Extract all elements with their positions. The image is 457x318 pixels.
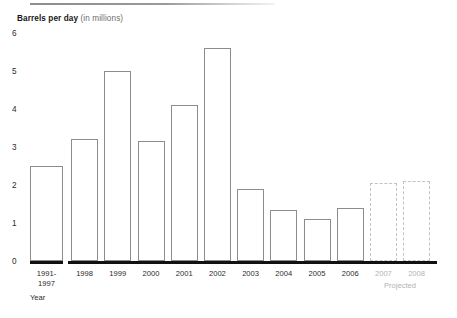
- bar: [30, 166, 63, 261]
- projected-annotation: Projected: [370, 281, 430, 290]
- bar: [270, 210, 297, 261]
- bar: [304, 219, 331, 261]
- y-axis-tick-label: 5: [12, 67, 24, 76]
- y-axis-tick-label: 4: [12, 105, 24, 114]
- x-axis-baseline-segment: [30, 261, 63, 264]
- chart-container: Barrels per day (in millions) 1991-19971…: [0, 0, 457, 318]
- x-axis-title: Year: [30, 293, 45, 302]
- bar: [237, 189, 264, 261]
- bar-projected: [370, 183, 397, 261]
- y-axis-tick-label: 0: [12, 257, 24, 266]
- bar: [138, 141, 165, 261]
- bar: [104, 71, 131, 261]
- bar: [171, 105, 198, 261]
- bar: [71, 139, 98, 261]
- bar: [337, 208, 364, 261]
- x-axis-tick-label: 2008: [395, 269, 439, 279]
- plot-area: 1991-19971998199920002001200220032004200…: [0, 0, 457, 318]
- x-axis-baseline: [68, 261, 437, 264]
- y-axis-tick-label: 3: [12, 143, 24, 152]
- bar-projected: [403, 181, 430, 261]
- y-axis-tick-label: 6: [12, 29, 24, 38]
- y-axis-tick-label: 2: [12, 181, 24, 190]
- y-axis-tick-label: 1: [12, 219, 24, 228]
- bar: [204, 48, 231, 261]
